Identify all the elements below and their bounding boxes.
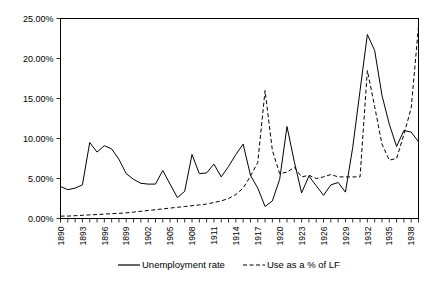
x-axis-tick-label: 1914 (231, 226, 241, 245)
x-axis-labels: 1890189318961899190219051908191119141917… (56, 226, 417, 245)
x-axis-tick-label: 1893 (78, 226, 88, 245)
x-axis-tick-label: 1896 (100, 226, 110, 245)
y-axis-labels: 0.00%5.00%10.00%15.00%20.00%25.00% (23, 14, 54, 224)
legend-label: Unemployment rate (142, 259, 225, 270)
chart-canvas: 0.00%5.00%10.00%15.00%20.00%25.00% 18901… (0, 0, 437, 289)
x-axis-tick-label: 1929 (341, 226, 351, 245)
x-axis-tick-label: 1908 (187, 226, 197, 245)
y-axis-tick-label: 25.00% (23, 14, 54, 24)
x-axis-tick-label: 1902 (143, 226, 153, 245)
x-axis-tick-label: 1926 (319, 226, 329, 245)
x-axis-tick-label: 1905 (165, 226, 175, 245)
x-axis-tick-label: 1935 (384, 226, 394, 245)
series-line-unemployment-rate (61, 35, 419, 207)
x-axis-tick-label: 1899 (121, 226, 131, 245)
y-axis-tick-label: 0.00% (28, 214, 54, 224)
x-axis-ticks (61, 219, 419, 223)
x-axis-tick-label: 1917 (253, 226, 263, 245)
plot-frame (61, 19, 419, 219)
x-axis-tick-label: 1911 (209, 226, 219, 245)
chart-legend: Unemployment rateUse as a % of LF (118, 259, 340, 270)
y-axis-ticks (57, 19, 61, 219)
legend-label: Use as a % of LF (267, 259, 340, 270)
y-axis-tick-label: 15.00% (23, 94, 54, 104)
x-axis-tick-label: 1932 (363, 226, 373, 245)
x-axis-tick-label: 1938 (406, 226, 416, 245)
data-series (61, 27, 419, 217)
x-axis-tick-label: 1920 (275, 226, 285, 245)
y-axis-tick-label: 20.00% (23, 54, 54, 64)
x-axis-tick-label: 1923 (297, 226, 307, 245)
x-axis-tick-label: 1890 (56, 226, 66, 245)
chart-container: 0.00%5.00%10.00%15.00%20.00%25.00% 18901… (0, 0, 437, 289)
y-axis-tick-label: 5.00% (28, 174, 54, 184)
y-axis-tick-label: 10.00% (23, 134, 54, 144)
